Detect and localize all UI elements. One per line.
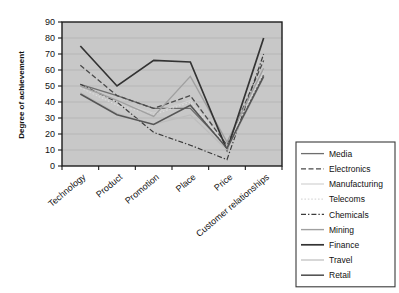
- y-axis-title: Degree of achievement: [17, 51, 26, 139]
- legend-label: Media: [329, 149, 352, 159]
- legend-label: Chemicals: [329, 210, 369, 220]
- y-tick-label: 70: [45, 49, 55, 59]
- y-tick-label: 40: [45, 97, 55, 107]
- legend-label: Travel: [329, 255, 352, 265]
- legend-label: Mining: [329, 225, 354, 235]
- y-tick-label: 30: [45, 113, 55, 123]
- y-tick-label: 20: [45, 129, 55, 139]
- y-tick-label: 0: [50, 161, 55, 171]
- y-tick-label: 10: [45, 145, 55, 155]
- y-tick-label: 50: [45, 81, 55, 91]
- legend-label: Manufacturing: [329, 179, 383, 189]
- legend-label: Retail: [329, 270, 351, 280]
- legend-label: Finance: [329, 240, 360, 250]
- legend: MediaElectronicsManufacturingTelecomsChe…: [296, 142, 395, 287]
- y-tick-label: 90: [45, 17, 55, 27]
- y-tick-label: 60: [45, 65, 55, 75]
- legend-label: Electronics: [329, 164, 371, 174]
- legend-label: Telecoms: [329, 194, 365, 204]
- y-tick-label: 80: [45, 33, 55, 43]
- line-chart: 0102030405060708090 Degree of achievemen…: [0, 0, 399, 293]
